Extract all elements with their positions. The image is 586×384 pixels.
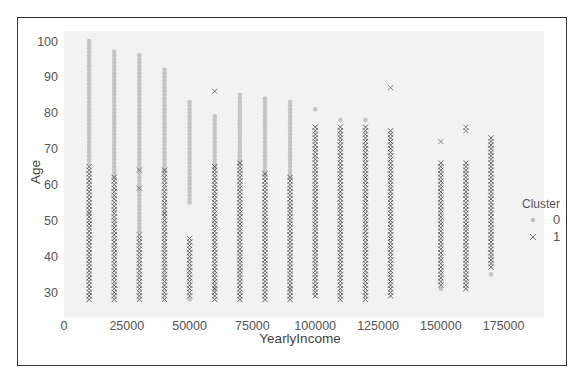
- legend-label-0: 0: [553, 212, 560, 227]
- legend-title: Cluster: [522, 197, 560, 211]
- y-tick-label: 100: [37, 35, 58, 49]
- scatter-chart: 30405060708090100 0250005000075000100000…: [0, 0, 586, 384]
- y-tick-label: 60: [44, 178, 58, 192]
- y-tick-label: 50: [44, 214, 58, 228]
- x-tick-label: 25000: [109, 319, 144, 333]
- y-tick-label: 30: [44, 286, 58, 300]
- y-axis-label: Age: [28, 160, 43, 184]
- legend: Cluster 0 1: [522, 197, 560, 244]
- x-tick-label: 175000: [483, 319, 525, 333]
- x-tick-label: 125000: [357, 319, 399, 333]
- x-tick-label: 50000: [172, 319, 207, 333]
- data-points: [87, 39, 494, 302]
- y-tick-label: 90: [44, 70, 58, 84]
- y-tick-label: 70: [44, 142, 58, 156]
- x-tick-label: 0: [61, 319, 68, 333]
- x-axis-label: YearlyIncome: [259, 331, 340, 346]
- legend-marker-circle-icon: [531, 218, 535, 222]
- y-tick-label: 40: [44, 250, 58, 264]
- x-tick-label: 150000: [420, 319, 462, 333]
- legend-label-1: 1: [553, 229, 560, 244]
- y-tick-label: 80: [44, 106, 58, 120]
- legend-marker-x-icon: [530, 234, 536, 240]
